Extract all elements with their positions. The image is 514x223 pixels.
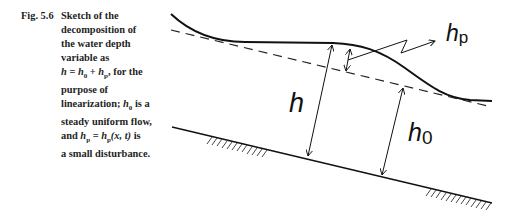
leader-zigzag-arrow bbox=[348, 40, 435, 60]
label-hp: hp bbox=[446, 20, 468, 47]
uniform-flow-dashed-line bbox=[171, 30, 492, 107]
depth-arrow-h bbox=[308, 45, 332, 156]
channel-bed-line bbox=[172, 127, 492, 203]
bed-hatching-right bbox=[426, 189, 491, 210]
free-surface-curve bbox=[171, 14, 492, 101]
depth-arrow-h0 bbox=[382, 88, 403, 175]
label-h: h bbox=[289, 88, 304, 118]
label-h0: h0 bbox=[408, 118, 432, 148]
channel-flow-sketch: h h0 hp bbox=[0, 0, 514, 223]
